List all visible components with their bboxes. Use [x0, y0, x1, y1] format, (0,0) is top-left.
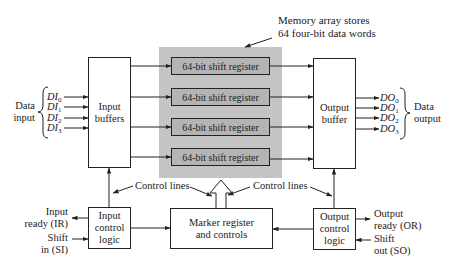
control-lines-left-label: Control lines — [135, 180, 190, 192]
memory-annotation: Memory array stores 64 four-bit data wor… — [278, 14, 376, 40]
input-ready-label: Input ready (IR) — [10, 206, 68, 230]
shift-in-label: Shift in (SI) — [10, 232, 68, 256]
bus-arrow-icon — [210, 180, 232, 208]
signal-di3: DI3 — [47, 122, 62, 137]
data-input-label: Data input — [5, 100, 35, 124]
data-output-label: Data output — [414, 101, 441, 125]
output-ready-label: Output ready (OR) — [374, 208, 422, 232]
control-lines-right-label: Control lines — [253, 180, 308, 192]
shift-out-label: Shift out (SO) — [374, 233, 410, 257]
signal-do3: DO3 — [380, 123, 399, 138]
